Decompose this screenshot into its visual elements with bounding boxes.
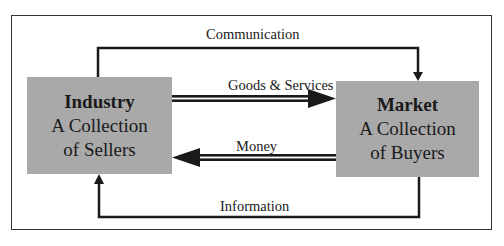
industry-line1: A Collection: [51, 114, 148, 138]
market-line2: of Buyers: [370, 141, 444, 165]
market-title: Market: [377, 93, 438, 117]
information-label: Information: [220, 198, 289, 215]
industry-line2: of Sellers: [63, 138, 135, 162]
goods-services-label: Goods & Services: [228, 77, 334, 94]
market-box: Market A Collection of Buyers: [336, 81, 479, 177]
industry-title: Industry: [64, 90, 135, 114]
money-label: Money: [236, 138, 277, 155]
industry-box: Industry A Collection of Sellers: [27, 77, 172, 174]
market-line1: A Collection: [359, 117, 456, 141]
communication-label: Communication: [206, 26, 299, 43]
